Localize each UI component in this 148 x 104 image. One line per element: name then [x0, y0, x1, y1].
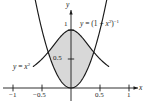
curve-label-parabola-exp: 2 [28, 62, 30, 67]
x-axis-arrow-icon [134, 86, 139, 89]
plot-canvas [0, 0, 148, 104]
x-tick-label-neg1: −1 [9, 92, 16, 99]
curve-label-bell-eq: = (1 + [83, 19, 105, 28]
curve-label-bell: y = (1 + x2)−1 [80, 20, 119, 28]
y-tick-label-1: 1 [64, 21, 68, 28]
y-axis-label: y [66, 1, 69, 9]
x-axis-label: x [139, 84, 142, 92]
curve-label-parabola: y = x2 [13, 63, 30, 71]
curve-label-bell-outer-exp: −1 [114, 19, 119, 24]
x-tick-label-pos1: 1 [127, 92, 131, 99]
x-tick-label-pos05: 0.5 [95, 92, 104, 99]
math-figure: y = (1 + x2)−1 y = x2 x y −1 −0.5 0.5 1 … [0, 0, 148, 104]
x-tick-label-neg05: −0.5 [33, 92, 46, 99]
y-tick-label-05: 0.5 [53, 55, 62, 62]
y-axis-arrow-icon [69, 10, 72, 15]
